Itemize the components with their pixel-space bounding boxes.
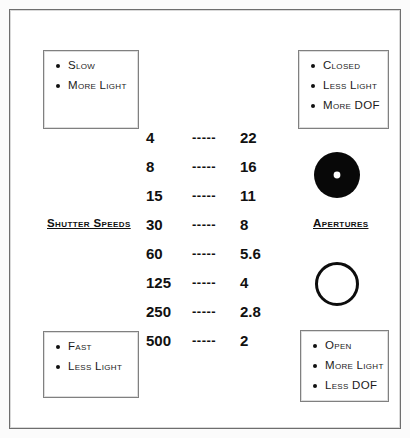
list-item: More Light [312,359,388,372]
callout-list: Fast Less Light [44,332,138,373]
shutter-speed-value: 8 [146,158,192,175]
aperture-value: 22 [240,129,257,146]
list-item: Slow [55,59,138,72]
callout-slow-shutter: Slow More Light [43,50,139,129]
list-item: More Light [55,79,138,92]
shutter-speed-value: 250 [146,303,192,320]
separator-dashes: ----- [192,130,240,145]
separator-dashes: ----- [192,304,240,319]
separator-dashes: ----- [192,188,240,203]
list-item: Fast [55,340,138,353]
shutter-speed-value: 15 [146,187,192,204]
list-item: More DOF [310,99,388,112]
table-row: 30 ----- 8 [146,210,276,239]
separator-dashes: ----- [192,217,240,232]
aperture-value: 4 [240,274,248,291]
shutter-speeds-heading: Shutter Speeds [47,217,131,229]
callout-list: Closed Less Light More DOF [299,51,388,112]
table-row: 250 ----- 2.8 [146,297,276,326]
shutter-speed-value: 125 [146,274,192,291]
shutter-speed-value: 60 [146,245,192,262]
diagram-page: Slow More Light Closed Less Light More D… [0,0,410,438]
closed-aperture-icon [313,151,361,203]
table-row: 60 ----- 5.6 [146,239,276,268]
table-row: 500 ----- 2 [146,326,276,355]
list-item: Open [312,339,388,352]
list-item: Less Light [55,360,138,373]
table-row: 8 ----- 16 [146,152,276,181]
apertures-heading: Apertures [313,217,368,229]
callout-closed-aperture: Closed Less Light More DOF [298,50,389,129]
callout-open-aperture: Open More Light Less DOF [300,330,389,402]
table-row: 4 ----- 22 [146,123,276,152]
aperture-value: 2.8 [240,303,261,320]
separator-dashes: ----- [192,333,240,348]
shutter-speed-value: 500 [146,332,192,349]
table-row: 15 ----- 11 [146,181,276,210]
shutter-speed-value: 4 [146,129,192,146]
table-row: 125 ----- 4 [146,268,276,297]
shutter-speed-value: 30 [146,216,192,233]
shutter-aperture-pair-table: 4 ----- 22 8 ----- 16 15 ----- 11 30 ---… [146,123,276,355]
aperture-value: 16 [240,158,257,175]
aperture-value: 5.6 [240,245,261,262]
open-aperture-icon [314,261,360,311]
aperture-value: 11 [240,187,256,204]
callout-list: Slow More Light [44,51,138,92]
aperture-value: 2 [240,332,248,349]
aperture-value: 8 [240,216,248,233]
callout-fast-shutter: Fast Less Light [43,331,139,398]
list-item: Less DOF [312,379,388,392]
separator-dashes: ----- [192,275,240,290]
list-item: Closed [310,59,388,72]
callout-list: Open More Light Less DOF [301,331,388,392]
separator-dashes: ----- [192,159,240,174]
diagram-frame: Slow More Light Closed Less Light More D… [9,9,401,429]
separator-dashes: ----- [192,246,240,261]
list-item: Less Light [310,79,388,92]
